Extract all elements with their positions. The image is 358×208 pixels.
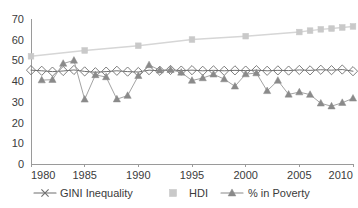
- x-tick-label: 2000: [233, 169, 257, 181]
- y-tick-label: 40: [12, 75, 24, 87]
- data-point-marker: [210, 70, 217, 77]
- legend-item-in-poverty[interactable]: % in Poverty: [221, 187, 310, 199]
- data-point-marker: [167, 66, 174, 73]
- chart-legend: GINI InequalityHDI% in Poverty: [34, 187, 310, 199]
- data-point-marker: [136, 43, 142, 49]
- data-point-marker: [329, 26, 335, 32]
- series-line: [42, 60, 353, 106]
- data-point-marker: [350, 24, 356, 30]
- data-point-marker: [124, 92, 131, 99]
- series-in-poverty: [38, 57, 356, 109]
- y-tick-label: 0: [18, 158, 24, 170]
- data-point-marker: [82, 48, 88, 54]
- y-axis-tick-labels: 010203040506070: [12, 13, 24, 170]
- y-tick-label: 60: [12, 34, 24, 46]
- data-point-marker: [307, 28, 313, 34]
- legend-marker-square-icon: [170, 190, 177, 197]
- y-tick-label: 20: [12, 117, 24, 129]
- data-point-marker: [297, 29, 303, 35]
- legend-marker-triangle-icon: [228, 189, 236, 196]
- series-layer: [26, 24, 357, 109]
- x-axis-tick-labels: 1980198519901995200020052010: [31, 169, 353, 181]
- y-tick-label: 10: [12, 137, 24, 149]
- data-point-marker: [49, 76, 56, 83]
- data-point-marker: [70, 57, 77, 64]
- data-point-marker: [189, 37, 195, 43]
- data-point-marker: [243, 33, 249, 39]
- data-point-marker: [274, 77, 281, 84]
- data-point-marker: [339, 25, 345, 31]
- x-tick-label: 1995: [180, 169, 204, 181]
- data-point-marker: [318, 27, 324, 33]
- legend-item-label: GINI Inequality: [60, 187, 133, 199]
- chart-plot: 010203040506070 198019851990199520002005…: [0, 0, 358, 208]
- series-hdi: [28, 24, 356, 59]
- data-point-marker: [145, 61, 152, 68]
- data-point-marker: [81, 96, 88, 103]
- x-tick-label: 1980: [31, 169, 55, 181]
- legend-item-label: HDI: [189, 187, 208, 199]
- x-tick-label: 1985: [72, 169, 96, 181]
- y-tick-label: 30: [12, 96, 24, 108]
- y-tick-label: 70: [12, 13, 24, 25]
- x-tick-label: 2010: [329, 169, 353, 181]
- legend-item-gini-inequality[interactable]: GINI Inequality: [34, 187, 133, 199]
- y-tick-label: 50: [12, 54, 24, 66]
- series-line: [31, 70, 353, 73]
- data-point-marker: [221, 75, 228, 82]
- x-tick-label: 2005: [287, 169, 311, 181]
- data-point-marker: [296, 88, 303, 95]
- data-point-marker: [317, 99, 324, 106]
- legend-item-hdi[interactable]: HDI: [170, 187, 208, 199]
- data-point-marker: [28, 53, 34, 59]
- data-point-marker: [349, 94, 356, 101]
- legend-item-label: % in Poverty: [248, 187, 310, 199]
- x-tick-label: 1990: [126, 169, 150, 181]
- chart-container: 010203040506070 198019851990199520002005…: [0, 0, 358, 208]
